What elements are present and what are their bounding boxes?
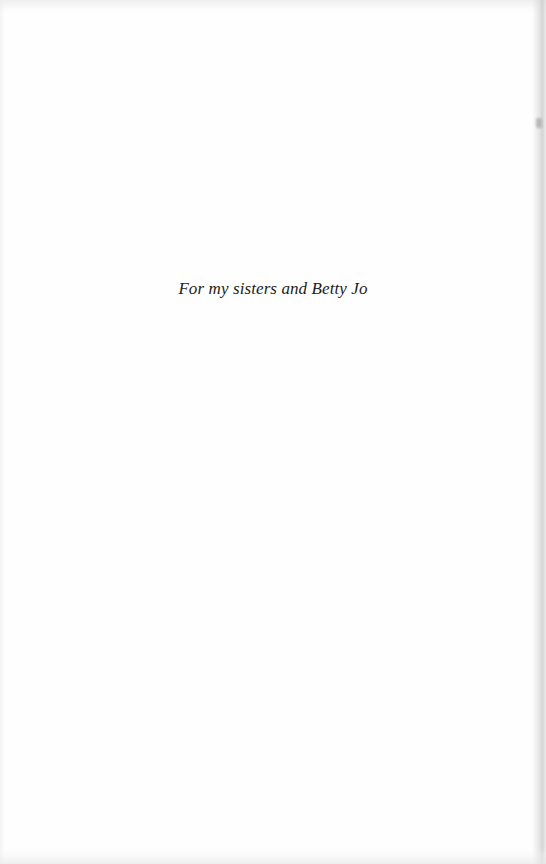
book-page: For my sisters and Betty Jo <box>0 0 546 864</box>
scan-edge-bottom <box>0 848 546 864</box>
scan-edge-top <box>0 0 546 14</box>
scan-edge-mark <box>536 118 542 128</box>
scan-edge-left <box>0 0 5 864</box>
dedication-text: For my sisters and Betty Jo <box>0 279 546 299</box>
scan-edge-right <box>532 0 546 864</box>
